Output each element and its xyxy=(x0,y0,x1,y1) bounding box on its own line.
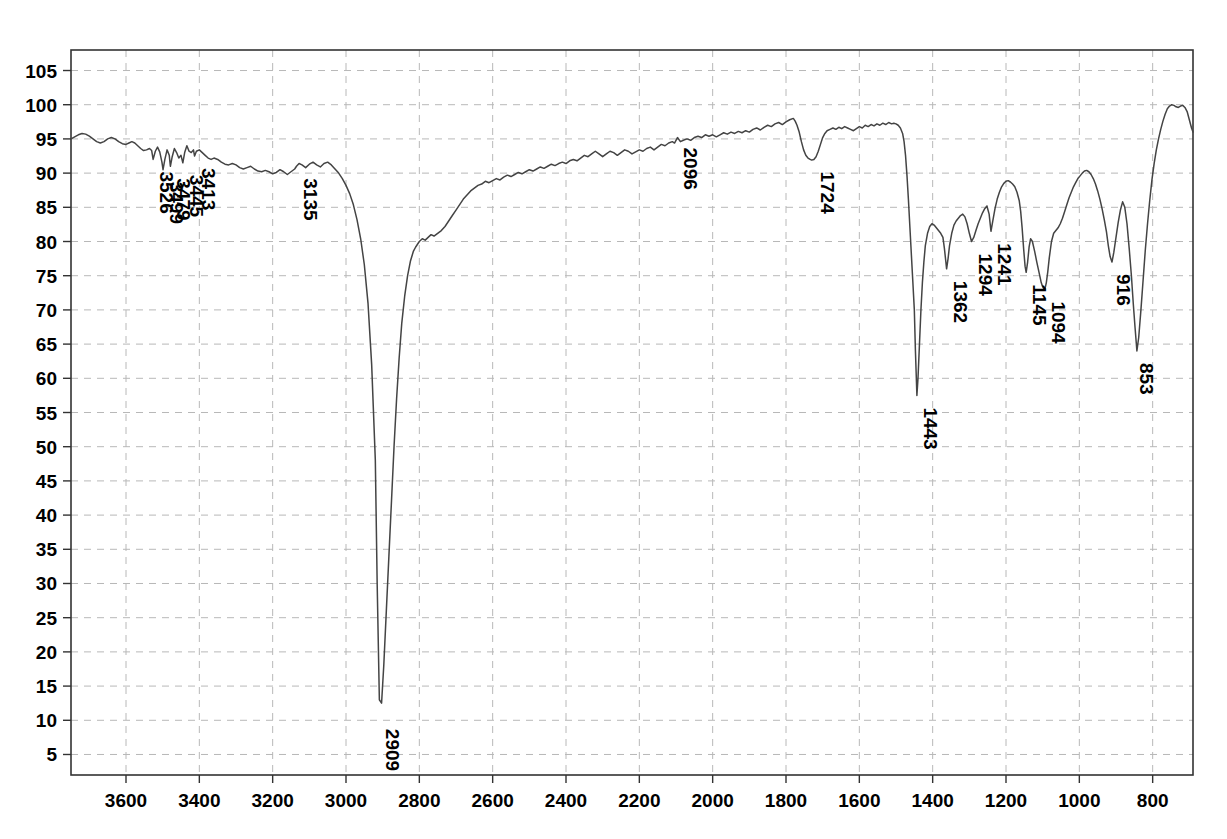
spectrum-plot-area: 5101520253035404550556065707580859095100… xyxy=(0,0,1227,839)
peak-label-text: 916 xyxy=(1113,274,1134,306)
spectrum-curve xyxy=(71,105,1193,703)
x-tick-label: 3600 xyxy=(105,790,147,811)
x-tick-label: 3200 xyxy=(252,790,294,811)
y-tick-label: 60 xyxy=(36,368,57,389)
y-tick-label: 30 xyxy=(36,573,57,594)
x-tick-label: 1800 xyxy=(765,790,807,811)
x-tick-label: 2800 xyxy=(398,790,440,811)
peak-label-text: 2096 xyxy=(680,148,701,190)
peak-label-text: 1241 xyxy=(994,243,1015,286)
peak-label: 1443 xyxy=(920,407,941,449)
peak-label: 853 xyxy=(1136,363,1157,395)
peak-label-text: 1094 xyxy=(1048,301,1069,344)
peak-label-text: 1294 xyxy=(975,254,996,297)
peak-label-text: 1362 xyxy=(950,281,971,323)
y-tick-label: 10 xyxy=(36,710,57,731)
x-axis-tick-labels: 3600340032003000280026002400220020001800… xyxy=(105,790,1169,811)
y-tick-label: 40 xyxy=(36,505,57,526)
peak-label: 3413 xyxy=(198,168,219,210)
peak-label: 916 xyxy=(1113,274,1134,306)
y-tick-label: 35 xyxy=(36,539,58,560)
ir-spectrum-chart: 5101520253035404550556065707580859095100… xyxy=(0,0,1227,839)
x-tick-label: 2200 xyxy=(618,790,660,811)
x-tick-label: 800 xyxy=(1137,790,1169,811)
x-tick-label: 3000 xyxy=(325,790,367,811)
y-tick-label: 5 xyxy=(46,744,57,765)
y-tick-label: 80 xyxy=(36,232,57,253)
peak-label: 1145 xyxy=(1029,284,1050,326)
y-tick-label: 100 xyxy=(25,95,57,116)
y-tick-label: 20 xyxy=(36,642,57,663)
x-tick-label: 1600 xyxy=(838,790,880,811)
peak-label: 3135 xyxy=(300,178,321,221)
peak-label-text: 3135 xyxy=(300,178,321,221)
y-tick-label: 95 xyxy=(36,129,58,150)
peak-label: 1294 xyxy=(975,254,996,297)
peak-label: 1094 xyxy=(1048,301,1069,344)
y-tick-label: 45 xyxy=(36,471,58,492)
peak-label-text: 2909 xyxy=(382,729,403,771)
y-tick-label: 50 xyxy=(36,437,57,458)
x-tick-label: 3400 xyxy=(178,790,220,811)
y-tick-label: 15 xyxy=(36,676,58,697)
peak-label: 1241 xyxy=(994,243,1015,286)
peak-label: 1724 xyxy=(817,171,838,214)
y-tick-label: 65 xyxy=(36,334,58,355)
grid-lines xyxy=(71,50,1193,775)
x-tick-label: 1200 xyxy=(985,790,1027,811)
y-tick-label: 55 xyxy=(36,403,58,424)
peak-label-text: 853 xyxy=(1136,363,1157,395)
y-tick-label: 70 xyxy=(36,300,57,321)
x-tick-label: 2000 xyxy=(692,790,734,811)
peak-label-text: 3413 xyxy=(198,168,219,210)
y-tick-label: 85 xyxy=(36,197,58,218)
x-tick-label: 2400 xyxy=(545,790,587,811)
peak-label-text: 1724 xyxy=(817,171,838,214)
x-tick-label: 1400 xyxy=(912,790,954,811)
peak-label-text: 1145 xyxy=(1029,284,1050,326)
y-tick-label: 105 xyxy=(25,61,57,82)
x-tick-label: 2600 xyxy=(472,790,514,811)
spectrum-trace xyxy=(71,105,1193,703)
y-tick-label: 75 xyxy=(36,266,58,287)
y-tick-label: 90 xyxy=(36,163,57,184)
x-tick-label: 1000 xyxy=(1058,790,1100,811)
peak-label-text: 1443 xyxy=(920,407,941,449)
axis-ticks xyxy=(63,71,1153,783)
peak-label: 2909 xyxy=(382,729,403,771)
peak-label: 1362 xyxy=(950,281,971,323)
y-axis-tick-labels: 5101520253035404550556065707580859095100… xyxy=(25,61,57,766)
y-tick-label: 25 xyxy=(36,608,58,629)
peak-label: 2096 xyxy=(680,148,701,190)
